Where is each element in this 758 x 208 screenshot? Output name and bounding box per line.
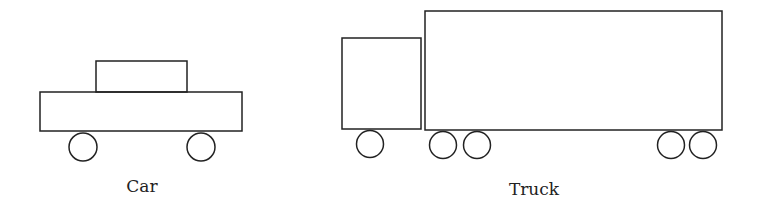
truck-wheel: [658, 132, 685, 159]
truck-figure: Truck: [342, 11, 722, 199]
truck-wheel: [690, 132, 717, 159]
truck-label: Truck: [509, 179, 560, 199]
truck-wheel: [464, 132, 491, 159]
car-body: [40, 92, 242, 131]
truck-cab: [342, 38, 421, 129]
car-figure: Car: [40, 61, 242, 196]
car-cabin: [96, 61, 187, 92]
car-wheel-rear: [187, 133, 215, 161]
truck-wheel: [430, 132, 457, 159]
car-label: Car: [126, 176, 158, 196]
truck-wheel: [357, 131, 384, 158]
vehicle-diagram: Car Truck: [0, 0, 758, 208]
car-wheel-front: [69, 133, 97, 161]
truck-trailer: [425, 11, 722, 130]
